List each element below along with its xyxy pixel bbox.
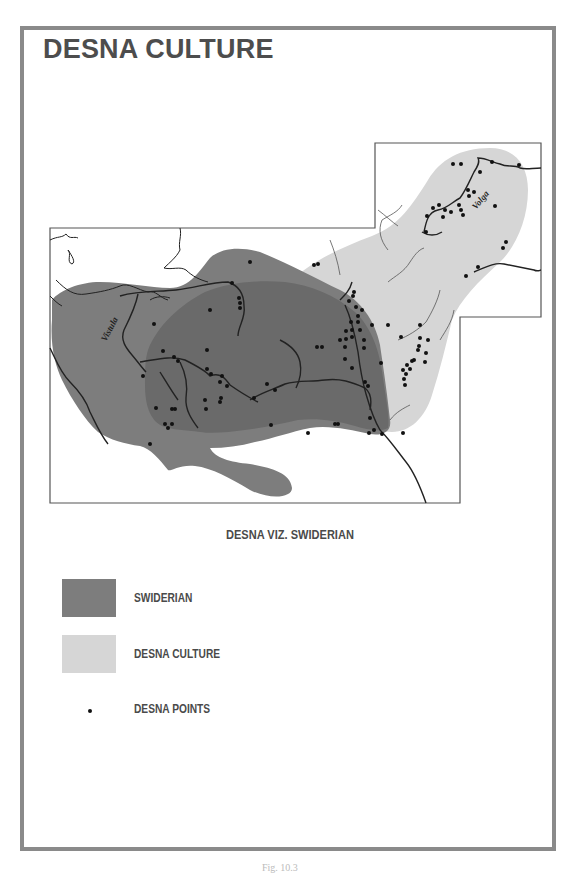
legend-point-icon [88,709,92,713]
legend-label-swiderian: SWIDERIAN [134,591,192,605]
map-subtitle: DESNA VIZ. SWIDERIAN [226,527,354,542]
legend-label-desna-points: DESNA POINTS [134,702,210,716]
figure-caption: Fig. 10.3 [262,862,298,873]
legend-swatch-swiderian [62,579,116,617]
legend-swatch-desna-culture [62,635,116,673]
legend-label-desna-culture: DESNA CULTURE [134,647,220,661]
